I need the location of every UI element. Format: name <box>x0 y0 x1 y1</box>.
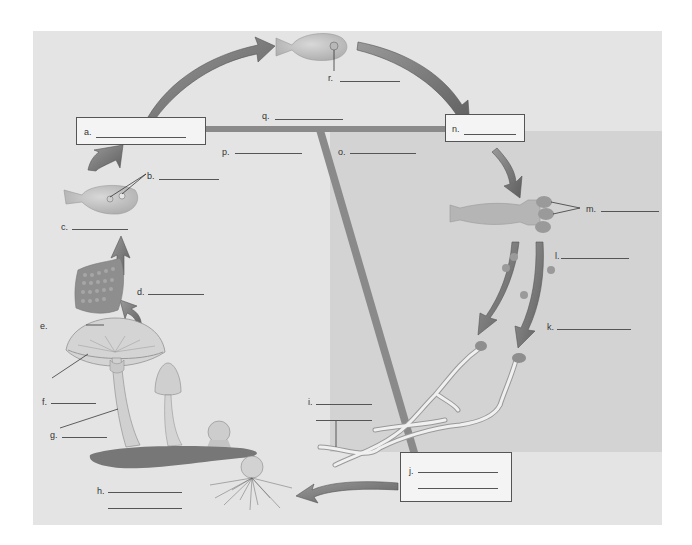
label-box-j: j. <box>400 452 512 502</box>
answer-blank-j-1[interactable] <box>418 472 498 473</box>
answer-blank-a[interactable] <box>96 137 186 138</box>
label-box-a: a. <box>76 117 206 145</box>
answer-blank-g[interactable] <box>62 437 107 438</box>
hyphae <box>320 341 526 465</box>
label-a: a. <box>84 127 92 137</box>
answer-blank-c[interactable] <box>72 229 128 230</box>
label-j: j. <box>409 466 414 476</box>
label-b: b. <box>147 171 155 181</box>
answer-blank-m[interactable] <box>601 211 659 212</box>
label-o: o. <box>338 147 346 157</box>
label-i: i. <box>308 397 313 407</box>
answer-blank-j-2[interactable] <box>418 488 498 489</box>
label-g: g. <box>50 430 58 440</box>
ground <box>90 446 257 468</box>
answer-blank-h-1[interactable] <box>108 492 182 493</box>
label-r: r. <box>328 73 333 83</box>
cycle-arrows <box>88 37 543 503</box>
mature-mushroom <box>66 318 165 447</box>
label-n: n. <box>452 124 460 134</box>
label-e: e. <box>40 321 48 331</box>
label-h: h. <box>97 486 105 496</box>
label-f: f. <box>42 397 47 407</box>
answer-blank-f[interactable] <box>51 403 96 404</box>
answer-blank-l[interactable] <box>561 258 629 259</box>
label-box-n: n. <box>445 114 525 142</box>
answer-blank-n[interactable] <box>464 134 516 135</box>
label-m: m. <box>586 204 596 214</box>
young-mushroom <box>155 363 182 446</box>
answer-blank-o[interactable] <box>350 153 416 154</box>
answer-blank-d[interactable] <box>148 294 204 295</box>
answer-blank-r[interactable] <box>340 81 400 82</box>
basidium-with-spores <box>450 196 580 233</box>
basidium-cell <box>64 174 146 214</box>
answer-blank-k[interactable] <box>557 329 631 330</box>
label-c: c. <box>61 222 68 232</box>
answer-blank-p[interactable] <box>235 153 302 154</box>
label-p: p. <box>222 147 230 157</box>
gill-section <box>75 258 124 313</box>
button-mushroom <box>206 421 232 450</box>
label-k: k. <box>547 322 554 332</box>
button-with-mycelium <box>210 456 292 510</box>
answer-blank-h-2[interactable] <box>108 508 182 509</box>
answer-blank-i-1[interactable] <box>316 404 372 405</box>
label-l: l. <box>555 251 560 261</box>
answer-blank-i-2[interactable] <box>316 420 372 421</box>
answer-blank-q[interactable] <box>275 119 343 120</box>
label-q: q. <box>262 111 270 121</box>
label-d: d. <box>137 287 145 297</box>
zygote-cell <box>276 34 347 71</box>
answer-blank-b[interactable] <box>159 179 219 180</box>
